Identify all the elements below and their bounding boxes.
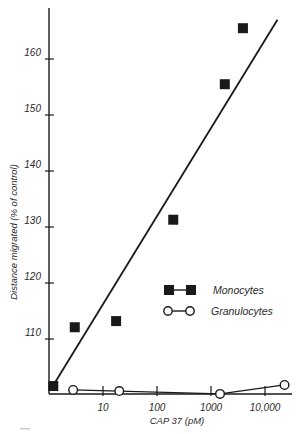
filled-square-marker xyxy=(168,215,178,225)
granulocytes-line xyxy=(73,385,284,394)
y-tick-label: 120 xyxy=(24,271,41,282)
caption-fragment xyxy=(20,428,30,430)
monocytes-series xyxy=(48,23,248,391)
open-circle-marker xyxy=(216,390,225,399)
x-tick-label: 10 xyxy=(97,402,109,413)
x-tick-label: 100 xyxy=(149,402,166,413)
filled-square-icon xyxy=(186,285,196,295)
x-axis-title: CAP 37 (pM) xyxy=(150,415,205,426)
filled-square-marker xyxy=(238,23,248,33)
legend-label-granulocytes: Granulocytes xyxy=(211,305,274,317)
monocytes-fit-line xyxy=(54,20,277,384)
legend-label-monocytes: Monocytes xyxy=(213,284,265,296)
open-circle-icon xyxy=(186,307,194,315)
y-tick-label: 150 xyxy=(24,103,41,114)
open-circle-icon xyxy=(164,307,172,315)
legend: Monocytes Granulocytes xyxy=(164,284,274,317)
filled-square-marker xyxy=(111,316,121,326)
y-axis-title: Distance migrated (% of control) xyxy=(8,164,19,300)
legend-item-monocytes: Monocytes xyxy=(164,284,265,296)
open-circle-marker xyxy=(115,387,124,396)
legend-item-granulocytes: Granulocytes xyxy=(164,305,274,317)
open-circle-marker xyxy=(69,386,78,395)
filled-square-marker xyxy=(48,381,58,391)
y-tick-label: 130 xyxy=(24,215,41,226)
granulocytes-series xyxy=(69,381,289,399)
filled-square-icon xyxy=(164,285,174,295)
filled-square-marker xyxy=(70,322,80,332)
open-circle-marker xyxy=(280,381,289,390)
y-tick-label: 140 xyxy=(24,159,41,170)
y-tick-label: 110 xyxy=(25,327,41,338)
chart: 110120130140150160 10100100010,000 Dista… xyxy=(0,0,298,434)
x-tick-label: 10,000 xyxy=(250,402,281,413)
y-tick-label: 160 xyxy=(24,47,41,58)
x-tick-label: 1000 xyxy=(200,402,223,413)
filled-square-marker xyxy=(220,79,230,89)
regression-line xyxy=(54,20,277,384)
y-axis: 110120130140150160 xyxy=(24,8,54,394)
